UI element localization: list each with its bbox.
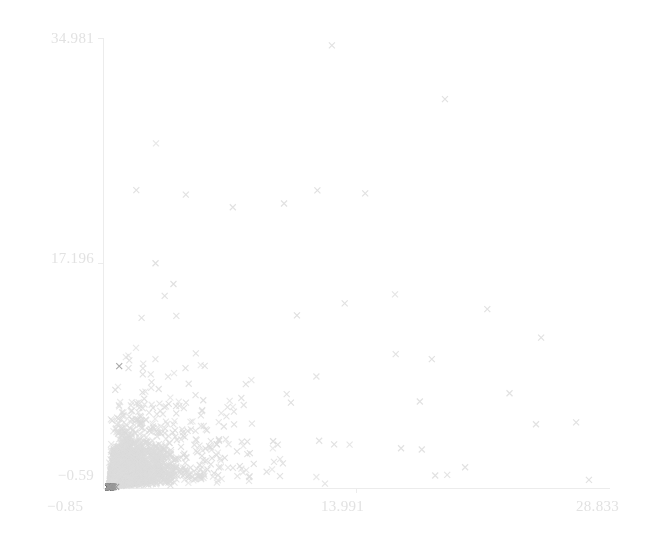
y-axis-tick-label-bottom: −0.59	[58, 468, 94, 483]
y-axis-tick-label-middle: 17.196	[51, 251, 94, 266]
y-axis-tick-label-top: 34.981	[51, 31, 94, 46]
scatter-plot-canvas	[0, 0, 669, 557]
x-axis-tick-label-right: 28.833	[576, 499, 619, 514]
x-axis-tick-label-left: −0.85	[47, 499, 83, 514]
x-axis-tick-label-middle: 13.991	[321, 499, 364, 514]
scatter-plot-figure: 34.981 17.196 −0.59 −0.85 13.991 28.833	[0, 0, 669, 557]
